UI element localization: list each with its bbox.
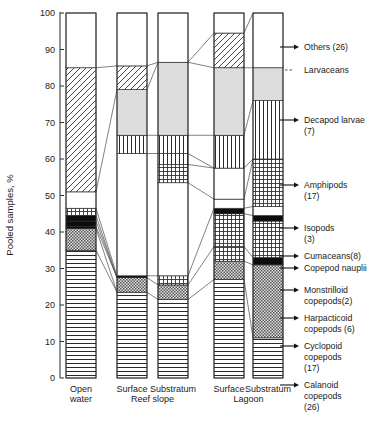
connector-line xyxy=(244,214,253,216)
segment-amphipods xyxy=(117,154,147,276)
legend-label-calanoid: (26) xyxy=(304,402,320,412)
segment-monstrilloid xyxy=(66,221,96,226)
y-axis-title: Pooled samples, % xyxy=(4,174,15,256)
x-label-open-water-2: water xyxy=(69,394,92,404)
segment-calanoid xyxy=(214,279,244,378)
connector-line xyxy=(188,154,214,169)
segment-calanoid xyxy=(253,338,283,378)
legend-label-calanoid: copepods xyxy=(304,391,342,401)
connector-line xyxy=(188,62,214,67)
segment-amphipods xyxy=(253,101,283,159)
connector-line xyxy=(244,261,253,265)
legend-label-decapod: Decapod larvae xyxy=(304,115,365,125)
legend-item-decapod[interactable]: Decapod larvae(7) xyxy=(304,115,365,136)
legend-arrow-icon xyxy=(294,44,299,49)
x-label-surface-lagoon: Surface xyxy=(213,384,244,394)
segment-calanoid xyxy=(66,250,96,378)
segment-cyclopoid xyxy=(158,285,188,300)
bar-substratum-reef-slope[interactable] xyxy=(158,13,188,378)
bar-substratum-lagoon[interactable] xyxy=(253,13,283,378)
y-tick-label: 50 xyxy=(45,191,55,201)
legend-item-isopods[interactable]: Isopods(3) xyxy=(304,223,335,244)
legend-item-cyclopoid[interactable]: Cyclopoidcopepods(17) xyxy=(304,341,342,373)
legend-item-cumaceans[interactable]: Cumaceans(8) xyxy=(304,251,361,261)
segment-isopods xyxy=(158,164,188,182)
legend-arrow-icon xyxy=(294,117,299,122)
segment-cumaceans xyxy=(66,208,96,215)
segment-cumaceans xyxy=(158,154,188,165)
legend-arrow-icon xyxy=(294,382,299,387)
connector-line xyxy=(188,279,214,299)
legend-item-harpacticoid[interactable]: Harpacticoidcopepods (6) xyxy=(304,313,355,334)
legend-label-monstrilloid: Monstrilloid xyxy=(304,285,348,295)
segment-decapod2 xyxy=(117,90,147,136)
segment-decapod xyxy=(214,135,244,168)
segment-harpacticoid xyxy=(158,276,188,285)
legend-arrow-icon xyxy=(294,253,299,258)
connector-line xyxy=(96,250,117,292)
y-tick-label: 20 xyxy=(45,300,55,310)
bar-surface-lagoon[interactable] xyxy=(214,13,244,378)
legend-label-calanoid: Calanoid xyxy=(304,380,338,390)
connector-line xyxy=(147,62,158,89)
segment-monstrilloid xyxy=(253,221,283,257)
segment-decapod2 xyxy=(253,68,283,101)
segment-cyclopoid xyxy=(117,278,147,293)
segment-amphipods xyxy=(158,183,188,276)
connector-line xyxy=(244,247,253,258)
connector-line xyxy=(244,159,253,199)
legend-label-amphipods: (17) xyxy=(304,191,320,201)
legend-item-others[interactable]: Others (26) xyxy=(304,42,348,52)
segment-others xyxy=(117,13,147,66)
y-tick-label: 80 xyxy=(45,81,55,91)
connector-line xyxy=(96,66,117,68)
segment-calanoid xyxy=(117,292,147,378)
connector-line xyxy=(244,206,253,208)
stacked-bar-chart: 1009080706050403020100Pooled samples, % … xyxy=(0,0,370,421)
connector-line xyxy=(96,208,117,276)
connector-line xyxy=(96,227,117,278)
legend-label-isopods: (3) xyxy=(304,234,315,244)
legend-label-isopods: Isopods xyxy=(304,223,335,233)
segment-nauplii xyxy=(66,216,96,221)
legend-item-calanoid[interactable]: Calanoidcopepods(26) xyxy=(304,380,342,412)
legend-label-harpacticoid: Harpacticoid xyxy=(304,313,352,323)
bar-open-water[interactable] xyxy=(66,13,96,378)
legend-item-amphipods[interactable]: Amphipods(17) xyxy=(304,180,348,201)
segment-calanoid xyxy=(158,300,188,378)
legend-item-nauplii[interactable]: Copepod nauplii xyxy=(304,263,367,273)
segment-nauplii xyxy=(253,216,283,221)
legend-arrow-icon xyxy=(294,287,299,292)
segment-decapod2 xyxy=(158,62,188,135)
bar-surface-reef-slope[interactable] xyxy=(117,13,147,378)
segment-nauplii xyxy=(214,208,244,213)
legend-arrow-icon xyxy=(294,315,299,320)
connector-line xyxy=(147,292,158,299)
x-label-open-water: Open xyxy=(70,384,92,394)
segment-cyclopoid xyxy=(214,261,244,279)
segment-decapod xyxy=(158,135,188,153)
legend-label-cyclopoid: (17) xyxy=(304,363,320,373)
legend-label-monstrilloid: copepods(2) xyxy=(304,296,352,306)
legend-item-monstrilloid[interactable]: Monstrilloidcopepods(2) xyxy=(304,285,352,306)
segment-decapod2 xyxy=(214,68,244,136)
connector-line xyxy=(244,279,253,337)
segment-cyclopoid xyxy=(66,228,96,250)
x-label-substratum-reef-slope: Substratum xyxy=(150,384,196,394)
segment-others xyxy=(214,13,244,33)
legend-label-cumaceans: Cumaceans(8) xyxy=(304,251,361,261)
legend-label-larvaceans: Larvaceans xyxy=(304,65,350,75)
legend-label-cyclopoid: Cyclopoid xyxy=(304,341,342,351)
segment-cumaceans xyxy=(214,199,244,208)
segment-others xyxy=(253,13,283,68)
connector-line xyxy=(188,183,214,199)
y-tick-label: 100 xyxy=(40,8,55,18)
x-label-surface-reef-slope: Surface xyxy=(116,384,147,394)
legend-label-nauplii: Copepod nauplii xyxy=(304,263,367,273)
y-tick-label: 40 xyxy=(45,227,55,237)
segment-larvaceans xyxy=(117,66,147,90)
legend-item-larvaceans[interactable]: Larvaceans xyxy=(304,65,350,75)
connector-line xyxy=(147,278,158,285)
legend-arrow-icon xyxy=(294,225,299,230)
segment-larvaceans xyxy=(214,33,244,68)
